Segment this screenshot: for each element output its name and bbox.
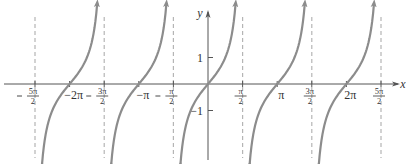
tangent-graph: xy1−1 5π2−2π3π2−ππ2π2π3π22π5π2	[0, 0, 409, 164]
fraction-denominator: 2	[100, 96, 104, 106]
y-axis-label: y	[196, 6, 203, 20]
fraction-denominator: 2	[308, 96, 312, 106]
x-tick-fraction: 3π2	[304, 86, 316, 106]
x-tick-label: −π	[136, 88, 149, 102]
x-tick-fraction: 3π2	[86, 86, 108, 106]
fraction-numerator: π	[169, 86, 174, 96]
x-tick-fraction: π2	[155, 86, 177, 106]
fraction-numerator: 3π	[306, 86, 315, 96]
fraction-numerator: 5π	[29, 86, 38, 96]
fraction-denominator: 2	[238, 96, 242, 106]
x-tick-fraction: 5π2	[17, 86, 39, 106]
y-tick-label: 1	[197, 51, 203, 65]
x-tick-fraction: 5π2	[373, 86, 385, 106]
x-tick-label: 2π	[344, 88, 356, 102]
fraction-denominator: 2	[169, 96, 173, 106]
x-tick-label: −2π	[64, 88, 83, 102]
fraction-numerator: 5π	[375, 86, 384, 96]
x-tick-label: π	[278, 88, 284, 102]
x-tick-fraction: π2	[235, 86, 247, 106]
fraction-denominator: 2	[31, 96, 35, 106]
x-axis-label: x	[399, 77, 406, 91]
fraction-numerator: 3π	[98, 86, 107, 96]
fraction-numerator: π	[238, 86, 243, 96]
fraction-denominator: 2	[377, 96, 381, 106]
